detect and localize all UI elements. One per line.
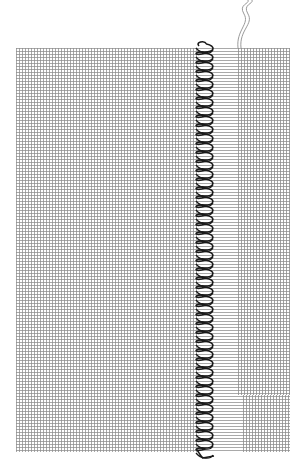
woven-fabric-left (16, 48, 197, 452)
loose-threads (238, 0, 252, 48)
overcast-stitch (196, 42, 214, 458)
stitch-diagram (0, 0, 301, 465)
